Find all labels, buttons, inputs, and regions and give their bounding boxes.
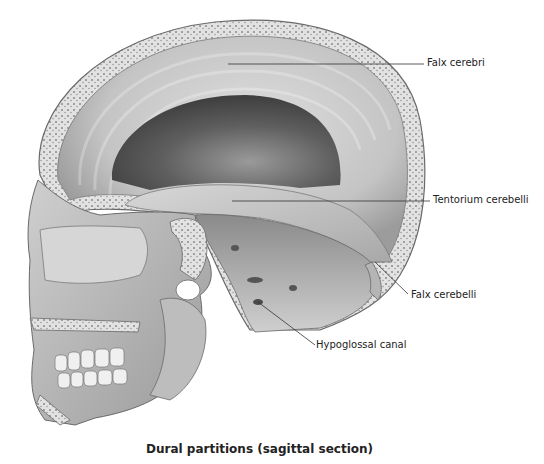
label-tentorium-cerebelli: Tentorium cerebelli [433,194,529,205]
skull-sagittal-illustration [0,0,544,464]
label-falx-cerebri: Falx cerebri [427,57,485,68]
external-acoustic-meatus [176,280,200,300]
label-falx-cerebelli: Falx cerebelli [411,289,476,300]
figure-caption: Dural partitions (sagittal section) [146,442,373,456]
label-hypoglossal-canal: Hypoglossal canal [316,339,407,350]
facial-skeleton [28,180,211,425]
